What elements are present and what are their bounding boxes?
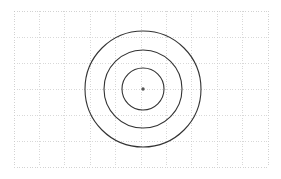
center-dot <box>141 87 144 90</box>
concentric-circles-plot <box>0 0 281 179</box>
figure-canvas <box>0 0 281 179</box>
plot-background <box>0 0 281 179</box>
